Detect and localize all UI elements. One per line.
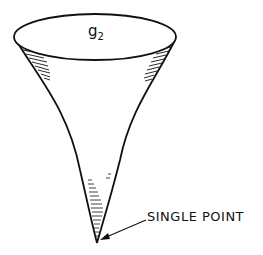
arrow-head-icon xyxy=(100,233,110,240)
single-point-label: SINGLE POINT xyxy=(147,209,244,224)
cone-left-edge xyxy=(16,40,97,243)
pointer-line xyxy=(104,220,146,238)
cone-diagram: g2 SINGLE POINT xyxy=(0,0,263,255)
